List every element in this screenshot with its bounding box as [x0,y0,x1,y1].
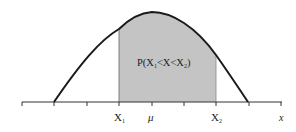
axis-ticks [22,102,281,106]
normal-curve-diagram: P(X1<X<X2) X1 μ X2 x [0,0,296,132]
x-axis-variable-label: x [278,112,284,123]
probability-label: P(X1<X<X2) [137,57,191,69]
x2-label: X2 [211,111,222,124]
mu-label: μ [147,111,154,123]
x1-label: X1 [114,111,125,124]
